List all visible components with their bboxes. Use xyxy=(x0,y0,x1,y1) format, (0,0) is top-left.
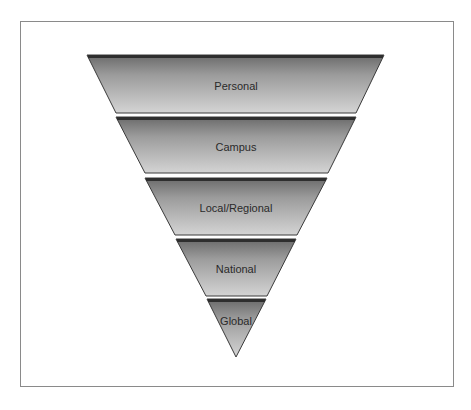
level-label-campus: Campus xyxy=(216,141,257,153)
level-label-national: National xyxy=(216,263,256,275)
level-label-global: Global xyxy=(220,315,252,327)
level-label-local-regional: Local/Regional xyxy=(200,202,273,214)
level-label-personal: Personal xyxy=(214,80,257,92)
level-global xyxy=(207,299,266,357)
